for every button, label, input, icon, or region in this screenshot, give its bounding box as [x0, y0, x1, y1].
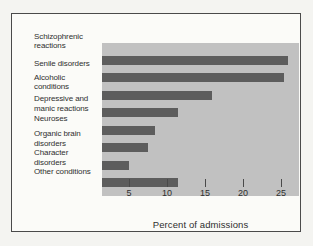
category-label: Characterdisorders: [34, 148, 68, 167]
x-tick-label: 25: [271, 188, 291, 198]
category-label: Organic braindisorders: [34, 129, 81, 148]
x-axis-label: Percent of admissions: [102, 219, 299, 230]
x-tick-label: 20: [233, 188, 253, 198]
chart-panel: SchizophrenicreactionsSenile disordersAl…: [11, 13, 301, 232]
bar-organic-brain-disorders: [102, 143, 148, 152]
bar-character-disorders: [102, 161, 129, 170]
bar-chart-figure: SchizophrenicreactionsSenile disordersAl…: [0, 0, 313, 246]
category-label: Alcoholicconditions: [34, 73, 69, 92]
bar-alcoholic-conditions: [102, 91, 212, 100]
x-tick-label: 10: [157, 188, 177, 198]
x-tick-mark: [129, 179, 130, 187]
category-label: Other conditions: [34, 167, 91, 177]
x-tick-mark: [281, 179, 282, 187]
bar-schizophrenic-reactions: [102, 56, 288, 65]
category-label: Senile disorders: [34, 59, 90, 69]
plot-area: [102, 43, 299, 196]
x-tick-mark: [243, 179, 244, 187]
category-label: Depressive andmanic reactions: [34, 94, 89, 113]
bar-depressive-and-manic-reactions: [102, 108, 178, 117]
x-tick-label: 5: [119, 188, 139, 198]
bar-neuroses: [102, 126, 155, 135]
x-tick-mark: [167, 179, 168, 187]
bar-senile-disorders: [102, 73, 284, 82]
category-label: Neuroses: [34, 114, 67, 124]
x-tick-label: 15: [195, 188, 215, 198]
category-label: Schizophrenicreactions: [34, 32, 83, 51]
x-tick-mark: [205, 179, 206, 187]
